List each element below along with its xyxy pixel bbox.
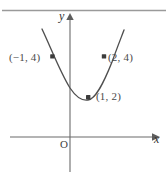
y-axis-label: y [59, 9, 64, 24]
point-marker-left [50, 54, 54, 58]
parabola-figure: (−1, 4) (2, 4) (1, 2) y x O [0, 0, 168, 178]
y-axis-arrowhead [66, 13, 73, 20]
point-label-left: (−1, 4) [9, 51, 40, 63]
graph-canvas [0, 0, 168, 178]
point-marker-vertex [86, 95, 90, 99]
origin-label: O [60, 138, 68, 150]
x-axis-label: x [154, 132, 159, 147]
point-marker-right [102, 54, 106, 58]
point-label-right: (2, 4) [108, 51, 133, 63]
point-label-vertex: (1, 2) [96, 90, 121, 102]
